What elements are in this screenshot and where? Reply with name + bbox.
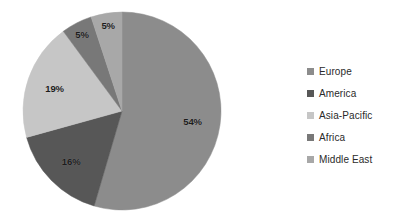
- pie-slice-group: [23, 12, 221, 210]
- legend-item[interactable]: Middle East: [307, 148, 395, 170]
- pie-slice-label: 16%: [62, 156, 81, 167]
- legend-item[interactable]: Africa: [307, 126, 395, 148]
- pie-slice-label: 5%: [101, 20, 115, 31]
- pie-plot-area: 54%16%19%5%5%: [0, 0, 250, 223]
- legend-swatch-icon: [307, 68, 314, 75]
- legend-item-label: Asia-Pacific: [319, 110, 372, 121]
- pie-slice-label: 54%: [183, 116, 202, 127]
- legend-item-label: Africa: [319, 132, 345, 143]
- legend-swatch-icon: [307, 156, 314, 163]
- legend-item[interactable]: Europe: [307, 60, 395, 82]
- legend-item-label: Europe: [319, 66, 352, 77]
- pie-chart: 54%16%19%5%5% EuropeAmericaAsia-PacificA…: [0, 0, 395, 223]
- legend-item[interactable]: America: [307, 82, 395, 104]
- chart-legend: EuropeAmericaAsia-PacificAfricaMiddle Ea…: [307, 60, 395, 170]
- legend-swatch-icon: [307, 134, 314, 141]
- legend-item-label: Middle East: [319, 154, 372, 165]
- legend-swatch-icon: [307, 112, 314, 119]
- pie-graphic: [0, 0, 250, 223]
- legend-swatch-icon: [307, 90, 314, 97]
- pie-slice-label: 5%: [75, 28, 89, 39]
- legend-item[interactable]: Asia-Pacific: [307, 104, 395, 126]
- pie-slice-label: 19%: [45, 82, 64, 93]
- legend-item-label: America: [319, 88, 356, 99]
